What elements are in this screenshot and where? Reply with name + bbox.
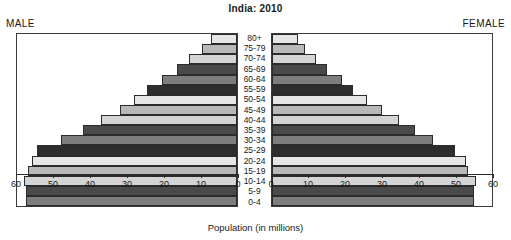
bar-female-35-39: [272, 125, 415, 135]
bar-male-20-24: [32, 156, 237, 166]
x-tick: [419, 174, 420, 178]
bar-male-30-34: [61, 135, 237, 145]
bar-row: [272, 64, 492, 74]
x-tick-label-40: 40: [85, 179, 95, 189]
male-x-axis: 6050403020100: [16, 174, 238, 192]
age-group-label-30-34: 30-34: [238, 135, 271, 145]
bar-male-60-64: [162, 75, 237, 85]
bar-male-50-54: [134, 95, 237, 105]
x-tick: [90, 174, 91, 178]
bar-row: [272, 54, 492, 64]
page-title: India: 2010: [0, 3, 511, 14]
age-group-label-0-4: 0-4: [238, 197, 271, 207]
bar-male-25-29: [37, 145, 237, 155]
age-group-label-25-29: 25-29: [238, 146, 271, 156]
bar-male-65-69: [177, 64, 238, 74]
bar-male-40-44: [101, 115, 237, 125]
bar-male-35-39: [83, 125, 237, 135]
age-group-label-65-69: 65-69: [238, 64, 271, 74]
bar-male-70-74: [189, 54, 237, 64]
x-tick: [16, 174, 17, 178]
x-tick-label-0: 0: [235, 179, 240, 189]
female-axis-caption: FEMALE: [463, 18, 505, 29]
bar-row: [272, 135, 492, 145]
age-group-label-80plus: 80+: [238, 33, 271, 43]
x-tick-label-0: 0: [268, 179, 273, 189]
bar-row: [17, 95, 237, 105]
x-tick: [382, 174, 383, 178]
age-group-label-40-44: 40-44: [238, 115, 271, 125]
bar-row: [17, 64, 237, 74]
age-group-label-35-39: 35-39: [238, 125, 271, 135]
bar-row: [272, 75, 492, 85]
x-tick: [271, 174, 272, 178]
bar-female-55-59: [272, 85, 353, 95]
x-tick: [164, 174, 165, 178]
bar-male-75-79: [202, 44, 237, 54]
bar-row: [272, 44, 492, 54]
bar-female-65-69: [272, 64, 327, 74]
bar-male-45-49: [120, 105, 237, 115]
bar-female-80plus: [272, 34, 298, 44]
bar-row: [17, 44, 237, 54]
x-tick: [456, 174, 457, 178]
age-group-label-55-59: 55-59: [238, 84, 271, 94]
bar-row: [272, 196, 492, 206]
bar-female-60-64: [272, 75, 342, 85]
bar-female-20-24: [272, 156, 466, 166]
bar-female-40-44: [272, 115, 399, 125]
x-tick-label-50: 50: [48, 179, 58, 189]
x-tick-label-50: 50: [451, 179, 461, 189]
x-tick-label-20: 20: [159, 179, 169, 189]
bar-row: [17, 115, 237, 125]
x-tick-label-10: 10: [303, 179, 313, 189]
age-group-label-60-64: 60-64: [238, 74, 271, 84]
bar-male-55-59: [147, 85, 237, 95]
age-group-label-15-19: 15-19: [238, 166, 271, 176]
age-group-axis: 80+75-7970-7465-6960-6455-5950-5445-4940…: [238, 33, 271, 207]
bar-row: [272, 85, 492, 95]
x-tick: [127, 174, 128, 178]
x-tick-label-30: 30: [122, 179, 132, 189]
age-group-label-5-9: 5-9: [238, 187, 271, 197]
bar-row: [272, 156, 492, 166]
bar-row: [17, 145, 237, 155]
bar-row: [17, 75, 237, 85]
bar-female-70-74: [272, 54, 316, 64]
x-tick: [238, 174, 239, 178]
bar-row: [272, 115, 492, 125]
bar-row: [272, 125, 492, 135]
bar-row: [17, 135, 237, 145]
x-tick-label-30: 30: [377, 179, 387, 189]
age-group-label-75-79: 75-79: [238, 43, 271, 53]
bar-male-80plus: [211, 34, 237, 44]
x-axis-title: Population (in millions): [0, 222, 511, 233]
age-group-label-20-24: 20-24: [238, 156, 271, 166]
bar-female-50-54: [272, 95, 367, 105]
bar-row: [17, 156, 237, 166]
x-tick-label-20: 20: [340, 179, 350, 189]
bar-row: [17, 34, 237, 44]
male-axis-caption: MALE: [6, 18, 35, 29]
bar-female-0-4: [272, 196, 474, 206]
bar-female-30-34: [272, 135, 433, 145]
x-tick-label-60: 60: [488, 179, 498, 189]
bar-male-0-4: [26, 196, 237, 206]
age-group-label-10-14: 10-14: [238, 176, 271, 186]
bar-row: [17, 196, 237, 206]
bar-row: [17, 85, 237, 95]
female-x-axis: 0102030405060: [271, 174, 493, 192]
bar-female-75-79: [272, 44, 305, 54]
bar-row: [272, 145, 492, 155]
x-tick: [345, 174, 346, 178]
x-tick: [308, 174, 309, 178]
x-tick-label-40: 40: [414, 179, 424, 189]
bar-row: [272, 95, 492, 105]
x-tick-label-60: 60: [11, 179, 21, 189]
bar-female-45-49: [272, 105, 382, 115]
bar-row: [17, 54, 237, 64]
bar-row: [272, 105, 492, 115]
x-tick: [53, 174, 54, 178]
x-tick: [493, 174, 494, 178]
bar-row: [17, 105, 237, 115]
